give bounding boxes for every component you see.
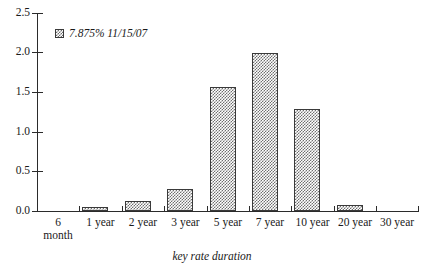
legend-entry-label: 7.875% 11/15/07 bbox=[69, 27, 147, 39]
bar-10-year bbox=[294, 109, 320, 211]
x-axis-label-5-year: 5 year bbox=[207, 216, 249, 229]
x-axis-label-20-year: 20 year bbox=[334, 216, 376, 229]
x-axis-label-7-year: 7 year bbox=[249, 216, 291, 229]
y-tick-1.5 bbox=[32, 92, 43, 93]
y-axis-label-1.5: 1.5 bbox=[0, 86, 30, 98]
key-rate-duration-bar-chart: 2.5 2.0 1.5 1.0 0.5 0.0 6 month 1 year 2… bbox=[0, 0, 424, 272]
bar-20-year bbox=[337, 205, 363, 211]
x-axis-line bbox=[37, 211, 418, 212]
bar-1-year bbox=[82, 207, 108, 211]
y-axis-label-0.0: 0.0 bbox=[0, 205, 30, 217]
x-tick-1 bbox=[79, 206, 80, 212]
x-axis-label-6-month: 6 month bbox=[37, 216, 79, 241]
x-tick-2 bbox=[122, 206, 123, 212]
y-axis-label-2.0: 2.0 bbox=[0, 46, 30, 58]
y-axis-label-2.5: 2.5 bbox=[0, 7, 30, 19]
y-axis-line bbox=[37, 13, 38, 212]
x-tick-7 bbox=[334, 206, 335, 212]
y-tick-2.0 bbox=[32, 52, 43, 53]
legend-swatch-icon bbox=[55, 29, 64, 38]
bar-7-year bbox=[252, 53, 278, 211]
y-axis-label-0.5: 0.5 bbox=[0, 165, 30, 177]
legend: 7.875% 11/15/07 bbox=[55, 27, 147, 39]
bar-3-year bbox=[167, 189, 193, 211]
x-tick-5 bbox=[249, 206, 250, 212]
x-tick-0 bbox=[37, 206, 38, 212]
x-axis-label-1-year: 1 year bbox=[79, 216, 122, 229]
x-tick-6 bbox=[291, 206, 292, 212]
x-axis-label-3-year: 3 year bbox=[164, 216, 207, 229]
x-tick-3 bbox=[164, 206, 165, 212]
x-tick-8 bbox=[376, 206, 377, 212]
x-axis-title: key rate duration bbox=[0, 250, 424, 262]
x-tick-9 bbox=[418, 206, 419, 212]
x-axis-label-30-year: 30 year bbox=[376, 216, 418, 229]
bar-2-year bbox=[125, 201, 151, 211]
x-tick-4 bbox=[207, 206, 208, 212]
y-tick-1.0 bbox=[32, 132, 43, 133]
x-axis-label-2-year: 2 year bbox=[122, 216, 164, 229]
y-axis-label-1.0: 1.0 bbox=[0, 126, 30, 138]
bar-5-year bbox=[210, 87, 236, 211]
y-tick-0.5 bbox=[32, 171, 43, 172]
x-axis-label-10-year: 10 year bbox=[291, 216, 334, 229]
y-tick-2.5 bbox=[32, 13, 43, 14]
